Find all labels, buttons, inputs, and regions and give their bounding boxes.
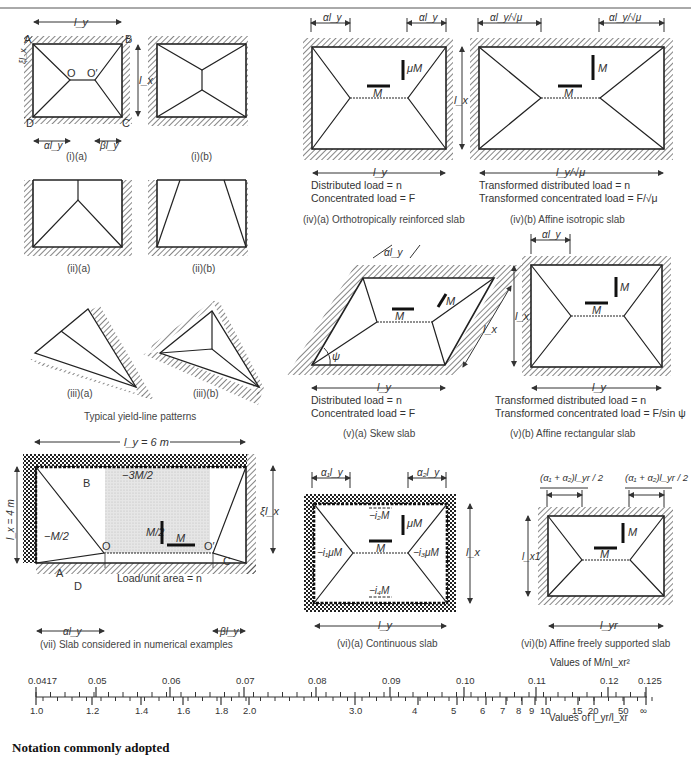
svg-text:M: M	[373, 87, 383, 99]
svg-text:l_x: l_x	[454, 94, 469, 106]
svg-text:(v)(a) Skew slab: (v)(a) Skew slab	[343, 428, 416, 439]
bottom-tick-label: 8	[516, 705, 521, 716]
svg-text:α₂l_y: α₂l_y	[417, 467, 440, 478]
panel-vi-b: (α₁ + α₂)l_yr / 2 (α₁ + α₂)l_yr / 2 M M …	[521, 472, 689, 649]
top-tick-label: 0.08	[308, 675, 327, 686]
bottom-tick-label: 4	[412, 705, 417, 716]
svg-text:Concentrated load = F: Concentrated load = F	[311, 192, 415, 204]
svg-text:−M/2: −M/2	[44, 530, 69, 542]
svg-text:−i₃μM: −i₃μM	[413, 547, 440, 558]
top-tick-label: 0.05	[88, 675, 107, 686]
bottom-tick-label: 1.0	[30, 705, 43, 716]
svg-text:Load/unit area = n: Load/unit area = n	[117, 572, 202, 584]
svg-text:ψ: ψ	[332, 350, 340, 362]
svg-text:B: B	[125, 33, 132, 45]
svg-text:l_y/√μ: l_y/√μ	[556, 166, 585, 178]
svg-text:(v)(b) Affine rectangular slab: (v)(b) Affine rectangular slab	[510, 428, 636, 439]
svg-text:Transformed distributed load =: Transformed distributed load = n	[479, 179, 630, 191]
svg-text:l_x: l_x	[515, 310, 530, 322]
bottom-tick-label: 1.4	[135, 705, 148, 716]
svg-text:Distributed load = n: Distributed load = n	[311, 394, 402, 406]
svg-text:αl_y: αl_y	[44, 140, 63, 151]
svg-text:α₁l_y: α₁l_y	[321, 467, 344, 478]
notation-heading: Notation commonly adopted	[12, 740, 169, 756]
svg-text:−i₄M: −i₄M	[369, 585, 390, 596]
svg-text:D: D	[74, 580, 82, 592]
top-tick-label: 0.11	[528, 675, 546, 686]
svg-text:Transformed concentrated load: Transformed concentrated load = F/√μ	[479, 192, 658, 204]
bottom-tick-label: 1.2	[86, 705, 99, 716]
svg-text:αl_y: αl_y	[542, 229, 561, 240]
svg-text:(α₁ + α₂)l_yr / 2: (α₁ + α₂)l_yr / 2	[625, 472, 689, 483]
svg-text:μM: μM	[406, 517, 423, 529]
top-tick-label: 0.0417	[28, 675, 57, 686]
svg-text:(vi)(b) Affine freely supporte: (vi)(b) Affine freely supported slab	[521, 638, 671, 649]
svg-text:D: D	[26, 117, 34, 129]
svg-text:O′: O′	[87, 67, 98, 79]
top-tick-label: 0.09	[382, 675, 401, 686]
svg-text:ξl_x: ξl_x	[18, 48, 28, 64]
svg-text:ξl_x: ξl_x	[260, 505, 279, 518]
top-scale-ticks: 0.04170.050.060.070.080.090.100.110.120.…	[28, 675, 662, 697]
svg-text:Concentrated load = F: Concentrated load = F	[311, 407, 415, 419]
svg-text:O: O	[67, 67, 76, 79]
nomogram-scale: Values of M/nl_xr² 0.04170.050.060.070.0…	[28, 657, 662, 723]
bottom-tick-label: 7	[500, 705, 505, 716]
svg-text:O: O	[102, 540, 111, 552]
panel-v-a: αl_y M M ψ l_x l_y Distributed load = n …	[300, 245, 512, 439]
svg-text:M: M	[446, 295, 456, 307]
svg-text:l_x: l_x	[466, 546, 481, 558]
svg-text:M: M	[592, 304, 602, 316]
svg-text:M: M	[598, 62, 608, 74]
svg-text:Values of l_yr/l_xr: Values of l_yr/l_xr	[549, 712, 628, 723]
bottom-tick-label: 3.0	[349, 705, 362, 716]
top-tick-label: 0.125	[638, 675, 662, 686]
panel-iv-b: l_x αl_y/√μ αl_y/√μ M M l_y/√μ Transform…	[454, 12, 673, 225]
svg-text:βl_y: βl_y	[99, 140, 119, 151]
svg-text:(ii)(a): (ii)(a)	[67, 263, 90, 274]
svg-text:M: M	[564, 87, 574, 99]
svg-text:αl_y: αl_y	[384, 247, 403, 258]
svg-text:l_y: l_y	[378, 619, 394, 631]
svg-text:M: M	[620, 281, 630, 293]
svg-text:μM: μM	[406, 62, 423, 74]
panel-ii-a: (ii)(a)	[24, 180, 132, 274]
bottom-tick-label: ∞	[640, 705, 647, 716]
svg-text:M: M	[395, 310, 405, 322]
svg-text:αl_y: αl_y	[419, 12, 438, 23]
bottom-tick-label: 1.6	[177, 705, 190, 716]
svg-text:αl_y: αl_y	[323, 12, 342, 23]
svg-text:(i)(b): (i)(b)	[191, 151, 212, 162]
svg-text:C: C	[223, 555, 231, 567]
svg-text:M: M	[376, 542, 386, 554]
svg-text:(vi)(a) Continuous slab: (vi)(a) Continuous slab	[337, 638, 438, 649]
svg-text:O′: O′	[204, 540, 215, 552]
svg-text:Transformed concentrated load: Transformed concentrated load = F/sin ψ	[495, 407, 686, 419]
svg-text:αl_y/√μ: αl_y/√μ	[609, 12, 642, 23]
bottom-tick-label: 1.8	[215, 705, 228, 716]
panel-iv-a: αl_y αl_y M μM l_y Distributed load = n …	[303, 12, 465, 225]
panel-i-a: l_y A B D C O O′ l_x ξl_x αl_y βl_y (i)(…	[18, 16, 154, 162]
svg-text:l_y: l_y	[373, 166, 389, 178]
panel-vii: l_y = 6 m B A D C O O′ −3M/2 −M/2 M/2 M …	[5, 436, 279, 650]
svg-text:(vii) Slab considered in numer: (vii) Slab considered in numerical examp…	[40, 639, 233, 650]
panel-ii-b: (ii)(b)	[148, 180, 248, 274]
top-tick-label: 0.10	[456, 675, 475, 686]
svg-text:Typical yield-line patterns: Typical yield-line patterns	[84, 411, 196, 422]
svg-text:M: M	[600, 548, 610, 560]
svg-text:αl_y: αl_y	[63, 626, 82, 637]
svg-text:αl_y/√μ: αl_y/√μ	[490, 12, 523, 23]
svg-text:M: M	[628, 526, 638, 538]
svg-text:l_x: l_x	[483, 323, 498, 335]
svg-text:l_y: l_y	[592, 381, 608, 393]
svg-text:l_y = 6 m: l_y = 6 m	[124, 436, 169, 448]
svg-text:B: B	[83, 477, 90, 489]
panel-v-b: αl_y M M l_x l_y Transformed distributed…	[495, 229, 686, 439]
svg-text:l_x1: l_x1	[522, 551, 540, 562]
svg-text:−3M/2: −3M/2	[122, 469, 153, 481]
svg-text:M: M	[176, 532, 186, 544]
svg-text:C: C	[122, 117, 130, 129]
svg-text:(iv)(a) Orthotropically reinfo: (iv)(a) Orthotropically reinforced slab	[303, 214, 465, 225]
svg-text:(α₁ + α₂)l_yr / 2: (α₁ + α₂)l_yr / 2	[540, 472, 604, 483]
bottom-tick-label: 5	[451, 705, 456, 716]
